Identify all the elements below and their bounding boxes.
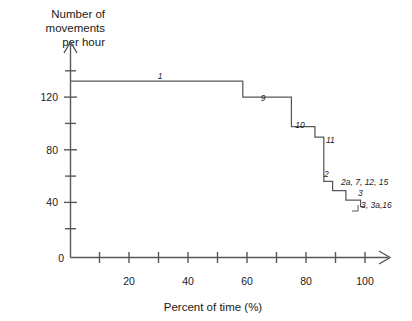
y-tick-label-0: 0: [58, 252, 64, 264]
y-axis-title-line2: movements: [46, 22, 106, 34]
x-tick-label-60: 60: [241, 275, 253, 287]
x-tick-label-40: 40: [182, 275, 194, 287]
step-curve: [71, 81, 366, 207]
x-axis-title: Percent of time (%): [164, 301, 263, 313]
series-label: 1: [158, 71, 163, 81]
series-labels: 19101122a, 7, 12, 1533, 3a,16: [158, 71, 392, 210]
y-tick-label-120: 120: [40, 91, 58, 103]
y-axis-title-line1: Number of: [51, 8, 105, 20]
series-label: 10: [295, 120, 305, 130]
series-label: 3, 3a,16: [361, 200, 392, 210]
x-tick-label-100: 100: [356, 275, 374, 287]
step-chart: Number of movements per hour 120 80 40 0: [0, 0, 412, 321]
chart-canvas: Number of movements per hour 120 80 40 0: [0, 0, 412, 321]
x-axis: 20 40 60 80 100 Percent of time (%): [71, 251, 391, 313]
y-tick-label-40: 40: [46, 196, 58, 208]
x-tick-label-20: 20: [123, 275, 135, 287]
y-axis: 120 80 40 0: [40, 42, 77, 264]
series-label: 9: [261, 93, 266, 103]
x-tick-label-80: 80: [300, 275, 312, 287]
series-label: 3: [358, 188, 363, 198]
series-label: 2: [323, 169, 329, 179]
series-label: 2a, 7, 12, 15: [340, 177, 389, 187]
y-tick-label-80: 80: [46, 144, 58, 156]
series-label: 11: [326, 135, 335, 145]
leader-line-final: [352, 205, 358, 211]
